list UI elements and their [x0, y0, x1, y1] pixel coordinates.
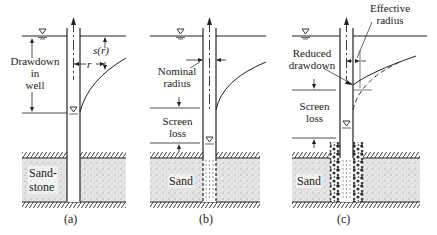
label-sand-b: Sand	[168, 174, 194, 188]
label-sandstone-line2: stone	[29, 180, 57, 194]
label-s-of-r: s(r)	[93, 44, 109, 56]
label-effective-line2: radius	[355, 14, 425, 26]
caption-a: (a)	[64, 212, 77, 227]
label-screen-loss-c-line2: loss	[292, 112, 337, 124]
label-drawdown-line1: Drawdown	[10, 55, 60, 67]
label-screen-loss-b: Screen loss	[155, 115, 200, 139]
gravel-pack-right	[353, 142, 363, 202]
label-nominal-line2: radius	[152, 77, 202, 89]
label-screen-loss-b-line2: loss	[155, 127, 200, 139]
label-drawdown-line3: well	[10, 79, 60, 91]
label-effective-line1: Effective	[355, 2, 425, 14]
label-sandstone-line1: Sand-	[29, 166, 57, 180]
caption-b: (b)	[199, 212, 213, 227]
caption-c: (c)	[337, 212, 350, 227]
label-drawdown-in-well: Drawdown in well	[10, 55, 60, 91]
label-r: r	[87, 58, 91, 70]
label-reduced-line1: Reduced	[284, 47, 340, 59]
label-screen-loss-c-line1: Screen	[292, 100, 337, 112]
label-reduced-line2: drawdown	[284, 59, 340, 71]
label-nominal-line1: Nominal	[152, 65, 202, 77]
label-sandstone: Sand- stone	[28, 166, 58, 194]
label-screen-loss-c: Screen loss	[292, 100, 337, 124]
label-drawdown-line2: in	[10, 67, 60, 79]
well-drawdown-diagram	[0, 0, 437, 235]
label-effective-radius: Effective radius	[355, 2, 425, 26]
label-screen-loss-b-line1: Screen	[155, 115, 200, 127]
label-nominal-radius: Nominal radius	[152, 65, 202, 89]
label-sand-c: Sand	[296, 174, 322, 188]
gravel-pack-left	[330, 142, 340, 202]
label-reduced-drawdown: Reduced drawdown	[284, 47, 340, 71]
